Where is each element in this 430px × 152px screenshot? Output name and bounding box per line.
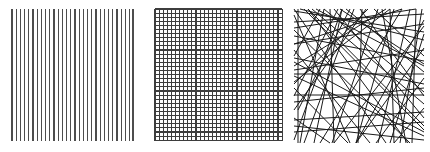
parallel-lines-svg [0, 0, 145, 152]
panel-grid-lines [145, 0, 290, 152]
random-lines-svg [290, 0, 430, 152]
figure-root [0, 0, 430, 152]
panel-parallel-lines [0, 0, 145, 152]
panel-random-lines [290, 0, 430, 152]
grid-lines-svg [145, 0, 290, 152]
parallel-lines-group [12, 9, 133, 141]
grid-lines-group [155, 9, 282, 141]
random-lines-group [294, 9, 424, 143]
